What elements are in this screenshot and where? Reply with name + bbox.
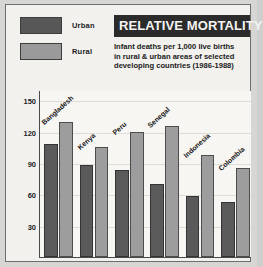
legend-label-rural: Rural (72, 47, 92, 56)
bar-urban (80, 165, 94, 257)
bar-rural (236, 168, 250, 257)
bar-urban (115, 170, 129, 257)
bar-rural (130, 132, 144, 257)
bar-urban (186, 196, 200, 257)
chart-subtitle: Infant deaths per 1,000 live births in r… (114, 42, 250, 71)
subtitle-line-1: Infant deaths per 1,000 live births (114, 42, 250, 52)
y-axis-tick-label: 120 (23, 128, 36, 137)
bar-rural (95, 147, 109, 257)
bar-group (80, 90, 109, 257)
x-axis-line (39, 257, 251, 258)
title-block: RELATIVE MORTALITY Infant deaths per 1,0… (114, 15, 250, 71)
bar-group (221, 90, 250, 257)
bar-group (186, 90, 215, 257)
y-axis-line (39, 91, 40, 258)
subtitle-line-3: developing countries (1986-1988) (114, 61, 250, 71)
bar-urban (150, 184, 164, 257)
bar-urban (44, 144, 58, 257)
bar-group (115, 90, 144, 257)
chart-legend: Urban Rural (20, 17, 116, 69)
legend-label-urban: Urban (72, 21, 95, 30)
legend-swatch-urban (20, 17, 62, 34)
chart-title: RELATIVE MORTALITY (114, 15, 250, 37)
y-axis-tick-label: 60 (28, 191, 36, 200)
chart-card: Urban Rural RELATIVE MORTALITY Infant de… (5, 4, 251, 262)
legend-swatch-rural (20, 43, 62, 60)
legend-item-rural: Rural (20, 43, 116, 60)
y-axis-tick-label: 30 (28, 222, 36, 231)
bar-rural (165, 126, 179, 258)
bar-rural (59, 122, 73, 257)
y-axis-tick-label: 90 (28, 160, 36, 169)
legend-item-urban: Urban (20, 17, 116, 34)
chart-plot-area: 306090120150 BangladeshKenyaPeruSenegalI… (39, 91, 251, 258)
poster-frame: Urban Rural RELATIVE MORTALITY Infant de… (0, 0, 257, 267)
y-axis-tick-label: 150 (23, 97, 36, 106)
subtitle-line-2: in rural & urban areas of selected (114, 52, 250, 62)
bar-urban (221, 202, 235, 257)
bar-rural (201, 155, 215, 257)
